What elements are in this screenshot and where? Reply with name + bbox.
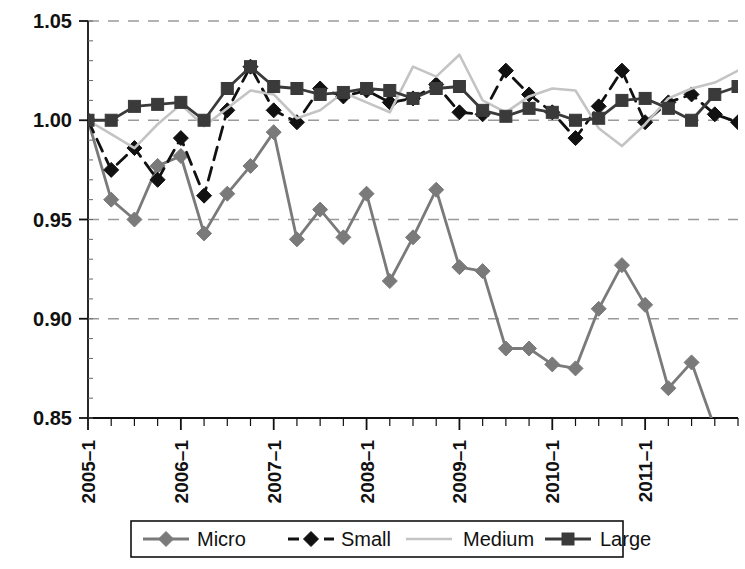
data-point-marker [568,361,583,376]
data-point-marker [384,84,396,96]
data-point-marker [523,102,535,114]
data-point-marker [429,182,444,197]
x-axis-tick-label: 2008–1 [357,440,378,504]
data-point-marker [638,297,653,312]
data-point-marker [731,115,745,130]
data-point-marker [173,131,188,146]
data-point-marker [337,86,349,98]
y-axis-tick-label: 0.90 [33,308,72,330]
series-small [81,59,745,203]
data-point-marker [498,341,513,356]
data-point-marker [245,61,257,73]
data-point-marker [175,96,187,108]
data-point-marker [314,88,326,100]
x-axis-tick-label: 2009–1 [449,440,470,504]
data-point-marker [291,82,303,94]
line-chart: 1.051.000.950.900.85 2005–12006–12007–12… [0,0,745,569]
data-point-marker [732,81,744,93]
data-point-marker [475,264,490,279]
data-point-marker [406,230,421,245]
y-axis-tick-labels-group: 1.051.000.950.900.85 [33,10,72,429]
y-axis-tick-label: 0.95 [33,209,72,231]
chart-legend: MicroSmallMediumLarge [131,521,651,557]
data-point-marker [500,110,512,122]
data-point-marker [662,102,674,114]
gridlines-group [88,21,738,418]
data-point-marker [546,106,558,118]
data-point-marker [477,104,489,116]
data-point-marker [614,63,629,78]
data-point-marker [152,98,164,110]
x-axis-tick-label: 2005–1 [78,440,99,504]
x-tick-marks-group [88,418,738,430]
legend-item-label: Small [341,528,391,550]
data-point-marker [430,82,442,94]
data-point-marker [616,94,628,106]
data-point-marker [614,258,629,273]
data-point-marker [198,114,210,126]
data-point-marker [453,81,465,93]
legend-item-label: Micro [197,528,246,550]
data-point-marker [128,100,140,112]
data-point-marker [593,112,605,124]
data-point-marker [173,148,188,163]
y-axis-tick-label: 1.05 [33,10,72,32]
data-point-marker [197,226,212,241]
data-point-marker [361,82,373,94]
x-axis-tick-labels-group: 2005–12006–12007–12008–12009–12010–12011… [78,440,656,504]
legend-item-label: Medium [463,528,534,550]
data-point-marker [686,114,698,126]
data-point-marker [452,260,467,275]
y-axis-tick-label: 1.00 [33,109,72,131]
x-axis-tick-label: 2010–1 [542,440,563,504]
data-point-marker [639,92,651,104]
x-axis-tick-label: 2007–1 [264,440,285,504]
data-point-marker [266,103,281,118]
data-point-marker [407,92,419,104]
x-axis-tick-label: 2006–1 [171,440,192,504]
data-point-marker [382,274,397,289]
x-axis-tick-label: 2011–1 [635,440,656,503]
data-point-marker [570,114,582,126]
data-point-marker [221,82,233,94]
y-axis-tick-label: 0.85 [33,407,72,429]
data-point-marker [268,81,280,93]
data-point-marker [359,186,374,201]
legend-item-label: Large [600,528,651,550]
data-point-marker [197,188,212,203]
chart-container: 1.051.000.950.900.85 2005–12006–12007–12… [0,0,745,569]
data-point-marker [562,533,574,545]
data-point-marker [591,301,606,316]
data-point-marker [709,88,721,100]
data-point-marker [105,114,117,126]
data-point-marker [498,63,513,78]
